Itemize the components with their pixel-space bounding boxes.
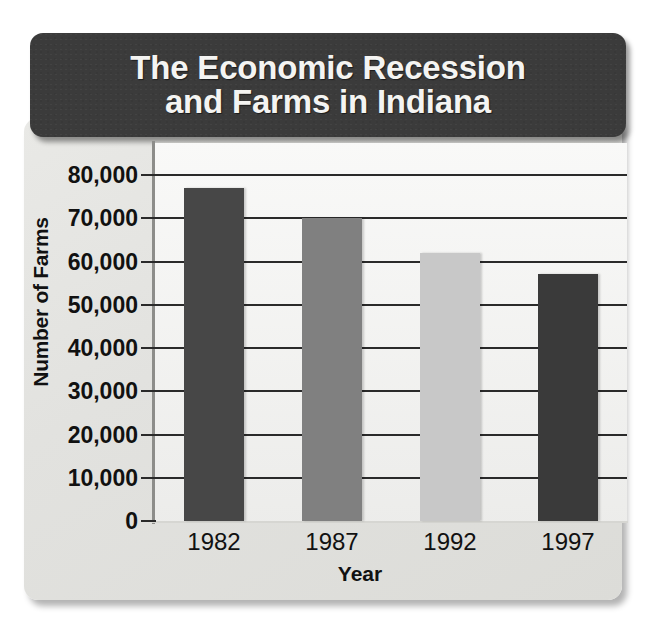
y-axis-tick — [141, 477, 156, 479]
gridline — [155, 174, 627, 176]
y-axis-title: Number of Farms — [29, 202, 53, 402]
bar-1992 — [420, 253, 480, 521]
bar-1982 — [184, 188, 244, 521]
chart-figure: The Economic Recession and Farms in Indi… — [0, 0, 655, 638]
y-axis-tick-label: 80,000 — [38, 162, 138, 189]
y-axis-tick-label: 20,000 — [38, 421, 138, 448]
bar-1987 — [302, 218, 362, 521]
y-axis-tick — [141, 217, 156, 219]
x-axis-tick-label: 1982 — [154, 528, 274, 556]
y-axis-spine — [152, 141, 155, 524]
chart-title: The Economic Recession and Farms in Indi… — [120, 51, 535, 120]
y-axis-tick-label: 30,000 — [38, 378, 138, 405]
y-axis-tick-label: 50,000 — [38, 291, 138, 318]
y-axis-tick-label: 70,000 — [38, 205, 138, 232]
y-axis-tick — [141, 434, 156, 436]
y-axis-tick — [141, 390, 156, 392]
y-axis-tick-label: 10,000 — [38, 464, 138, 491]
y-axis-tick — [141, 174, 156, 176]
y-axis-tick — [141, 304, 156, 306]
y-axis-tick-label: 60,000 — [38, 248, 138, 275]
y-axis-tick-label: 0 — [38, 508, 138, 535]
x-axis-tick-label: 1992 — [390, 528, 510, 556]
y-axis-tick — [141, 261, 156, 263]
y-axis-tick-label: 40,000 — [38, 335, 138, 362]
x-axis-title: Year — [155, 562, 565, 586]
y-axis-tick — [141, 520, 156, 522]
x-axis-tick-label: 1997 — [508, 528, 628, 556]
x-axis-baseline — [152, 521, 628, 523]
bar-1997 — [538, 274, 598, 521]
x-axis-tick-label: 1987 — [272, 528, 392, 556]
y-axis-tick — [141, 347, 156, 349]
